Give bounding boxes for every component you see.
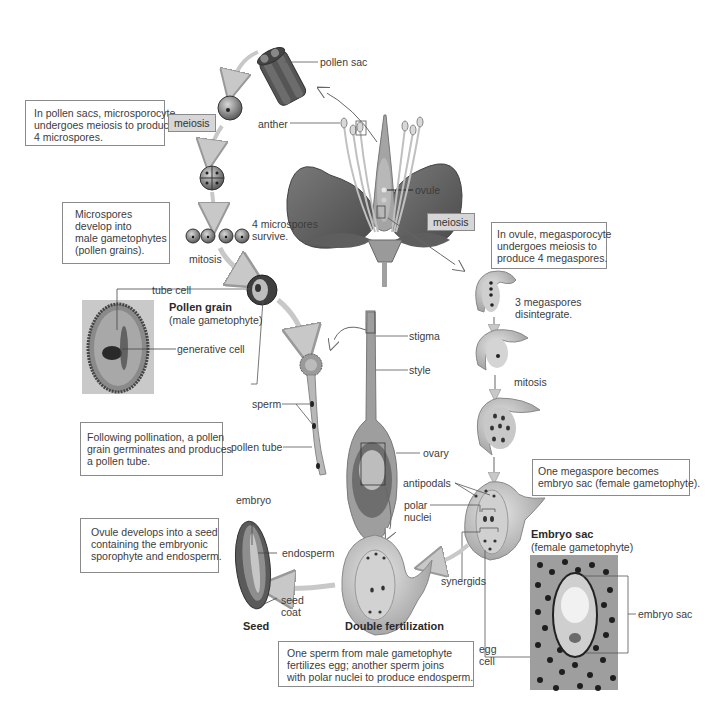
label-synergids: synergids bbox=[441, 575, 486, 587]
pollen-sac-illustration bbox=[255, 44, 318, 108]
caption-megasporocyte: In ovule, megasporocyte undergoes meiosi… bbox=[491, 222, 607, 269]
label-pollen-sac: pollen sac bbox=[320, 56, 367, 68]
caption-double-fertilization: One sperm from male gametophyte fertiliz… bbox=[278, 641, 474, 687]
label-seed-coat: seed coat bbox=[281, 594, 304, 618]
label-line: polar bbox=[404, 499, 431, 511]
label-four-microspores: 4 microspores survive. bbox=[252, 218, 318, 242]
label-three-megaspores: 3 megaspores disintegrate. bbox=[515, 296, 582, 320]
meiosis-tag-right: meiosis bbox=[427, 213, 475, 231]
caption-line: embryo sac (female gametophyte). bbox=[538, 477, 684, 489]
angiosperm-life-cycle-diagram: In pollen sacs, microsporocyte undergoes… bbox=[0, 0, 711, 706]
caption-line: In pollen sacs, microsporocyte bbox=[34, 107, 156, 119]
label-line: 4 microspores bbox=[252, 218, 318, 230]
caption-line: (pollen grains). bbox=[75, 244, 157, 256]
label-line: nuclei bbox=[404, 511, 431, 523]
caption-line: Microspores bbox=[75, 208, 157, 220]
label-mitosis-right: mitosis bbox=[514, 376, 547, 388]
label-embryo: embryo bbox=[236, 494, 271, 506]
caption-line: male gametophytes bbox=[75, 232, 157, 244]
label-line: egg bbox=[479, 643, 497, 655]
caption-pollination: Following pollination, a pollen grain ge… bbox=[80, 422, 223, 476]
label-stigma: stigma bbox=[409, 330, 440, 342]
label-line: 3 megaspores bbox=[515, 296, 582, 308]
caption-line: undergoes meiosis to produce bbox=[34, 119, 156, 131]
ovule-four-megaspores bbox=[476, 271, 516, 312]
caption-line: One sperm from male gametophyte bbox=[287, 647, 465, 659]
ovule-eight-nuclei bbox=[477, 398, 540, 455]
label-tube-cell: tube cell bbox=[152, 284, 191, 296]
pollen-tube-illustration bbox=[282, 354, 326, 475]
microspore-tetrad bbox=[200, 166, 224, 190]
label-line: survive. bbox=[252, 230, 318, 242]
label-double-fertilization-title: Double fertilization bbox=[345, 620, 444, 632]
embryo-sac-ovule bbox=[430, 482, 545, 657]
label-line: disintegrate. bbox=[515, 308, 582, 320]
label-ovary: ovary bbox=[423, 447, 449, 459]
label-anther: anther bbox=[258, 118, 288, 130]
label-endosperm: endosperm bbox=[282, 547, 335, 559]
label-ovule: ovule bbox=[415, 184, 440, 196]
label-polar-nuclei: polar nuclei bbox=[404, 499, 431, 523]
seed-illustration bbox=[231, 519, 277, 610]
four-microspores bbox=[186, 229, 249, 243]
embryo-sac-micrograph bbox=[530, 555, 636, 691]
caption-line: sporophyte and endosperm. bbox=[91, 550, 208, 562]
caption-line: containing the embryonic bbox=[91, 538, 208, 550]
ovule-one-megaspore bbox=[476, 330, 528, 370]
caption-line: a pollen tube. bbox=[87, 455, 216, 467]
label-line: cell bbox=[479, 655, 497, 667]
label-embryo-sac: embryo sac bbox=[638, 608, 692, 620]
caption-seed: Ovule develops into a seed containing th… bbox=[80, 518, 219, 573]
label-sperm: sperm bbox=[252, 398, 281, 410]
caption-line: 4 microspores. bbox=[34, 131, 156, 143]
label-generative-cell: generative cell bbox=[177, 343, 245, 355]
label-pollen-grain-sub: (male gametophyte) bbox=[169, 314, 262, 326]
microsporocyte-cell bbox=[218, 96, 242, 120]
pollen-grain-cell bbox=[247, 275, 277, 305]
caption-line: develop into bbox=[75, 220, 157, 232]
label-egg-cell: egg cell bbox=[479, 643, 497, 667]
label-style: style bbox=[409, 364, 431, 376]
caption-line: Ovule develops into a seed bbox=[91, 526, 208, 538]
meiosis-tag-left: meiosis bbox=[168, 114, 216, 132]
caption-line: In ovule, megasporocyte bbox=[497, 228, 601, 240]
label-seed-title: Seed bbox=[243, 620, 269, 632]
flower-illustration bbox=[287, 115, 462, 287]
label-mitosis-left: mitosis bbox=[189, 253, 222, 265]
caption-line: fertilizes egg; another sperm joins bbox=[287, 659, 465, 671]
label-line: seed bbox=[281, 594, 304, 606]
caption-microsporocyte: In pollen sacs, microsporocyte undergoes… bbox=[25, 100, 165, 146]
label-line: coat bbox=[281, 606, 304, 618]
caption-line: with polar nuclei to produce endosperm. bbox=[287, 671, 465, 683]
caption-line: grain germinates and produces bbox=[87, 443, 216, 455]
caption-line: Following pollination, a pollen bbox=[87, 431, 216, 443]
caption-line: undergoes meiosis to bbox=[497, 240, 601, 252]
caption-microspores: Microspores develop into male gametophyt… bbox=[62, 202, 170, 264]
label-pollen-tube: pollen tube bbox=[231, 441, 282, 453]
label-embryo-sac-title: Embryo sac bbox=[531, 528, 593, 540]
label-antipodals: antipodals bbox=[403, 477, 451, 489]
caption-line: produce 4 megaspores. bbox=[497, 252, 601, 264]
label-embryo-sac-sub: (female gametophyte) bbox=[531, 541, 633, 553]
caption-embryo-sac: One megaspore becomes embryo sac (female… bbox=[532, 459, 690, 496]
label-pollen-grain-title: Pollen grain bbox=[169, 301, 232, 313]
caption-line: One megaspore becomes bbox=[538, 465, 684, 477]
pollen-grain-micrograph bbox=[82, 289, 176, 394]
